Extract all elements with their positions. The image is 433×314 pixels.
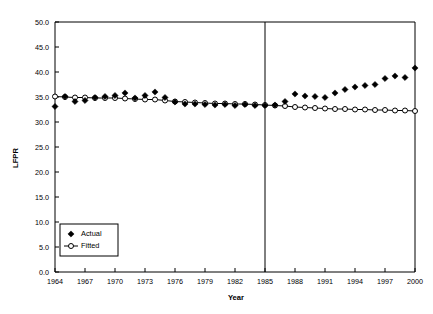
y-tick-label: 0.0 bbox=[39, 268, 49, 277]
y-tick-label: 20.0 bbox=[35, 168, 49, 177]
actual-point bbox=[152, 89, 158, 95]
lfpr-chart: 0.05.010.015.020.025.030.035.040.045.050… bbox=[0, 0, 433, 314]
fitted-point bbox=[313, 106, 318, 111]
chart-container: 0.05.010.015.020.025.030.035.040.045.050… bbox=[0, 0, 433, 314]
fitted-point bbox=[413, 109, 418, 114]
actual-point bbox=[412, 65, 418, 71]
x-tick-label: 1988 bbox=[287, 277, 303, 286]
x-tick-label: 2000 bbox=[407, 277, 423, 286]
y-axis-tick-labels: 0.05.010.015.020.025.030.035.040.045.050… bbox=[35, 18, 49, 277]
x-axis-tick-labels: 1964196719701973197619791982198519881991… bbox=[47, 277, 423, 286]
actual-point bbox=[292, 91, 298, 97]
legend-label-actual: Actual bbox=[81, 229, 102, 238]
legend-label-fitted: Fitted bbox=[81, 241, 99, 250]
y-tick-label: 10.0 bbox=[35, 218, 49, 227]
legend-marker-fitted bbox=[69, 244, 74, 249]
chart-legend: ActualFitted bbox=[60, 224, 118, 256]
actual-point bbox=[382, 75, 388, 81]
fitted-point bbox=[153, 97, 158, 102]
fitted-point bbox=[293, 105, 298, 110]
x-tick-label: 1979 bbox=[197, 277, 213, 286]
actual-point bbox=[372, 81, 378, 87]
actual-point bbox=[302, 93, 308, 99]
fitted-point bbox=[383, 108, 388, 113]
x-tick-label: 1973 bbox=[137, 277, 153, 286]
fitted-point bbox=[373, 108, 378, 113]
actual-point bbox=[282, 98, 288, 104]
actual-point bbox=[352, 84, 358, 90]
y-tick-label: 25.0 bbox=[35, 143, 49, 152]
fitted-point bbox=[123, 96, 128, 101]
fitted-point bbox=[53, 94, 58, 99]
y-tick-label: 30.0 bbox=[35, 118, 49, 127]
actual-point bbox=[402, 74, 408, 80]
x-tick-label: 1970 bbox=[107, 277, 123, 286]
actual-point bbox=[312, 93, 318, 99]
fitted-point bbox=[333, 107, 338, 112]
fitted-point bbox=[343, 107, 348, 112]
fitted-point bbox=[403, 108, 408, 113]
fitted-point bbox=[323, 106, 328, 111]
actual-point bbox=[52, 103, 58, 109]
fitted-point bbox=[363, 107, 368, 112]
x-axis-title: Year bbox=[228, 293, 244, 302]
fitted-point bbox=[353, 107, 358, 112]
y-tick-label: 5.0 bbox=[39, 243, 49, 252]
actual-point bbox=[322, 94, 328, 100]
x-tick-label: 1997 bbox=[377, 277, 393, 286]
fitted-point bbox=[393, 108, 398, 113]
actual-point bbox=[362, 82, 368, 88]
actual-point bbox=[332, 90, 338, 96]
y-tick-label: 40.0 bbox=[35, 68, 49, 77]
x-tick-label: 1991 bbox=[317, 277, 333, 286]
fitted-point bbox=[303, 105, 308, 110]
x-tick-label: 1964 bbox=[47, 277, 63, 286]
x-tick-label: 1982 bbox=[227, 277, 243, 286]
y-tick-label: 15.0 bbox=[35, 193, 49, 202]
y-tick-label: 50.0 bbox=[35, 18, 49, 27]
y-tick-label: 45.0 bbox=[35, 43, 49, 52]
x-tick-label: 1967 bbox=[77, 277, 93, 286]
x-tick-label: 1994 bbox=[347, 277, 363, 286]
y-axis-title: LFPR bbox=[11, 148, 20, 168]
actual-point bbox=[342, 86, 348, 92]
actual-point bbox=[122, 90, 128, 96]
actual-point bbox=[392, 73, 398, 79]
x-tick-label: 1976 bbox=[167, 277, 183, 286]
series-actual bbox=[52, 65, 418, 110]
y-tick-label: 35.0 bbox=[35, 93, 49, 102]
x-tick-label: 1985 bbox=[257, 277, 273, 286]
